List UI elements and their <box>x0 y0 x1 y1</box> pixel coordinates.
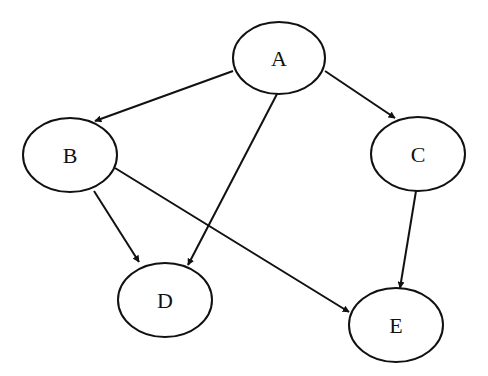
node-e: E <box>349 288 443 362</box>
edge-a-to-c-arrow-icon <box>325 71 395 118</box>
node-label: C <box>411 142 426 167</box>
edge-b-to-d-arrow-icon <box>94 191 139 262</box>
node-label: E <box>389 313 402 338</box>
node-a: A <box>233 22 325 94</box>
node-d: D <box>118 263 212 337</box>
directed-graph: ABCDE <box>0 0 488 376</box>
nodes: ABCDE <box>23 22 465 362</box>
node-c: C <box>371 117 465 191</box>
node-b: B <box>23 118 117 192</box>
edge-c-to-e-arrow-icon <box>400 191 416 288</box>
edge-a-to-b-arrow-icon <box>95 71 233 121</box>
node-label: D <box>157 288 173 313</box>
node-label: A <box>271 46 287 71</box>
node-label: B <box>63 143 78 168</box>
